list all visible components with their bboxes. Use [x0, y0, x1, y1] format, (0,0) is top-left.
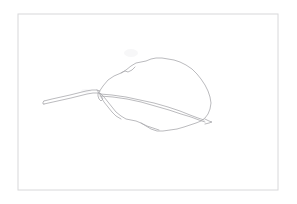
leaf-drawing-svg	[0, 0, 297, 204]
smudge-upper	[124, 49, 138, 57]
drawing-canvas: Leaf Pencil Drawing leaf pencil sketch	[0, 0, 297, 204]
